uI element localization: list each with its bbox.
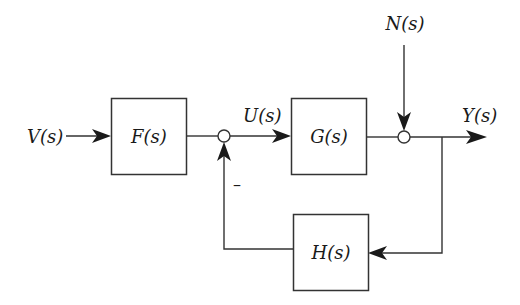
feedback-wire-to-h: [379, 137, 442, 253]
summing-junction-1: [218, 130, 230, 142]
summing-junction-2: [398, 131, 410, 143]
disturbance-label-n: N(s): [384, 13, 424, 34]
feedback-wire-to-sum1: [224, 151, 293, 249]
output-label-y: Y(s): [462, 105, 497, 126]
block-f-label: F(s): [130, 126, 167, 147]
block-h: H(s): [294, 215, 369, 291]
block-f: F(s): [112, 99, 187, 175]
minus-sign: –: [233, 175, 241, 194]
block-h-label: H(s): [311, 242, 351, 263]
input-label-v: V(s): [27, 126, 63, 147]
block-diagram: V(s) F(s) U(s) G(s) N(s) Y(s) H(s) –: [0, 0, 520, 305]
block-g-label: G(s): [310, 126, 348, 147]
block-g: G(s): [292, 99, 367, 175]
signal-label-u: U(s): [243, 105, 281, 126]
